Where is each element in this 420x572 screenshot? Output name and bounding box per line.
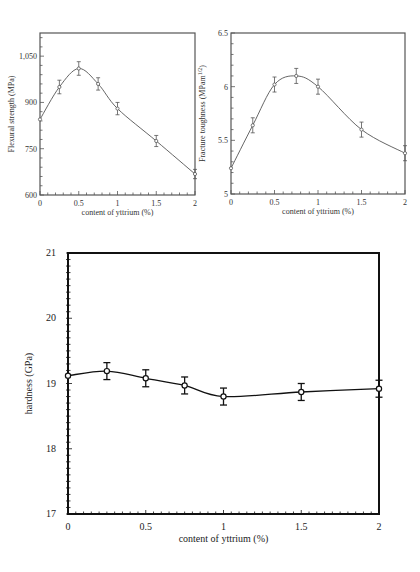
y-axis-title: Flexural strength (MPa): [7, 75, 16, 152]
plot-frame: [231, 33, 405, 194]
data-point: [316, 85, 319, 88]
y-axis-title: Fracture toughness (MPam1/2): [197, 65, 207, 162]
x-tick-label: 0.5: [74, 199, 84, 208]
series-line: [40, 68, 195, 174]
y-tick-label: 600: [25, 191, 37, 200]
x-tick-label: 1: [316, 198, 320, 207]
x-tick-label: 0.5: [140, 521, 153, 532]
y-tick-label: 17: [46, 508, 56, 519]
y-tick-label: 18: [46, 443, 56, 454]
data-point: [221, 394, 226, 399]
y-tick-label: 19: [46, 378, 56, 389]
x-axis-title: content of yttrium (%): [282, 207, 354, 216]
chart-hardness: 171819202100.511.52content of yttrium (%…: [23, 247, 383, 545]
data-point: [193, 172, 196, 175]
x-tick-label: 1.5: [357, 198, 367, 207]
figure-canvas: 6007509001,05000.511.52content of yttriu…: [0, 0, 420, 572]
x-axis-title: content of yttrium (%): [82, 208, 154, 217]
y-tick-label: 5.5: [218, 136, 228, 145]
y-tick-label: 750: [25, 145, 37, 154]
data-point: [116, 107, 119, 110]
data-point: [65, 373, 70, 378]
data-point: [376, 386, 381, 391]
data-point: [360, 128, 363, 131]
x-tick-label: 2: [403, 198, 407, 207]
data-point: [143, 376, 148, 381]
data-point: [77, 67, 80, 70]
data-point: [295, 74, 298, 77]
data-point: [182, 383, 187, 388]
data-point: [273, 83, 276, 86]
x-tick-label: 2: [377, 521, 382, 532]
x-tick-label: 1: [221, 521, 226, 532]
x-tick-label: 1.5: [295, 521, 308, 532]
data-point: [403, 152, 406, 155]
y-tick-label: 900: [25, 98, 37, 107]
data-point: [38, 118, 41, 121]
y-tick-label: 6.5: [218, 29, 228, 38]
x-tick-label: 0: [38, 199, 42, 208]
y-axis-title: hardness (GPa): [23, 353, 35, 414]
y-tick-label: 20: [46, 312, 56, 323]
y-tick-label: 1,050: [19, 52, 37, 61]
chart-toughness: 55.566.500.511.52content of yttrium (%)F…: [197, 29, 407, 216]
data-point: [229, 167, 232, 170]
data-point: [104, 369, 109, 374]
y-tick-label: 21: [46, 247, 56, 258]
x-axis-title: content of yttrium (%): [179, 533, 269, 545]
x-tick-label: 1.5: [151, 199, 161, 208]
chart-flexural: 6007509001,05000.511.52content of yttriu…: [7, 33, 197, 217]
y-tick-label: 5: [224, 190, 228, 199]
data-point: [299, 389, 304, 394]
x-tick-label: 0: [66, 521, 71, 532]
data-point: [155, 139, 158, 142]
x-tick-label: 1: [116, 199, 120, 208]
plot-frame: [68, 253, 379, 514]
data-point: [58, 85, 61, 88]
data-point: [251, 124, 254, 127]
x-tick-label: 2: [193, 199, 197, 208]
x-tick-label: 0.5: [270, 198, 280, 207]
x-tick-label: 0: [229, 198, 233, 207]
data-point: [97, 82, 100, 85]
y-tick-label: 6: [224, 83, 228, 92]
